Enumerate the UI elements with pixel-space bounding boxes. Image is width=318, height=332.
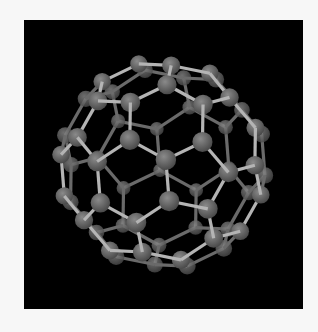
carbon-atom <box>192 132 212 152</box>
carbon-atom <box>159 191 179 211</box>
carbon-atom <box>91 193 110 212</box>
carbon-atom <box>156 149 176 169</box>
carbon-atom <box>120 130 140 150</box>
carbon-atom <box>157 75 176 94</box>
fullerene-molecule <box>24 20 303 309</box>
molecule-image-frame <box>24 20 303 309</box>
